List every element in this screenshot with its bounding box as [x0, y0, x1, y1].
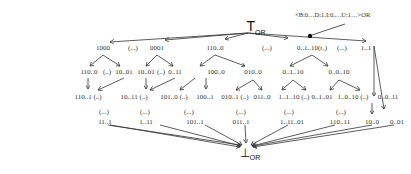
lattice-node: 011..0: [253, 93, 270, 101]
lattice-node: (...): [236, 108, 246, 116]
lattice-node: 1000: [96, 44, 110, 52]
lattice-node: (...): [284, 108, 294, 116]
lattice-node: (...): [140, 108, 150, 116]
lattice-node: 0..1..10(t₂): [297, 44, 327, 52]
lattice-node: 100..1: [196, 93, 214, 101]
lattice-node: 0..01: [390, 118, 404, 126]
lattice-node: (..): [103, 68, 111, 76]
annotation-point: [308, 34, 312, 38]
lattice-node: (...): [128, 44, 138, 52]
lattice-node: (..): [157, 68, 165, 76]
lattice-node: 110..1 (..): [74, 93, 101, 101]
lattice-diagram: TOR <B:0…D:1.I:0,…U:1…>OR 1000(...)00011…: [0, 0, 411, 174]
lattice-node: 010..0: [244, 68, 262, 76]
lattice-node: 10..01: [115, 68, 133, 76]
lattice-node: (...): [337, 44, 347, 52]
lattice-node: 11..1: [98, 118, 112, 126]
lattice-edges: [0, 0, 411, 174]
lattice-node: 1..1: [361, 44, 372, 52]
lattice-node: 101..0 (..): [160, 93, 187, 101]
lattice-node: 0..1..10: [283, 68, 304, 76]
top-node: TOR: [246, 18, 265, 36]
lattice-node: (...): [99, 108, 109, 116]
lattice-node: (...): [184, 108, 194, 116]
lattice-node: 1..0..10 (..): [338, 93, 369, 101]
lattice-node: 10..01: [137, 68, 155, 76]
lattice-node: 110..11: [330, 118, 350, 126]
lattice-node: 1..1..10 (..): [279, 93, 310, 101]
lattice-node: 100..0: [207, 68, 225, 76]
annotation-label: <B:0…D:1.I:0,…U:1…>OR: [295, 11, 370, 18]
lattice-node: 011..1: [232, 118, 249, 126]
lattice-node: 010..1 (..): [221, 93, 248, 101]
lattice-node: 0001: [150, 44, 164, 52]
lattice-node: (...): [336, 108, 346, 116]
lattice-node: (...): [262, 44, 272, 52]
lattice-node: 10..0: [365, 118, 379, 126]
lattice-node: 0..11: [168, 68, 182, 76]
lattice-node: 1..11..01: [280, 118, 304, 126]
lattice-node: 101..1: [186, 118, 204, 126]
lattice-node: 1..11: [139, 118, 153, 126]
lattice-node: 0..0..11: [378, 93, 399, 101]
lattice-node: 10..11 (..): [120, 93, 147, 101]
lattice-node: 110..0: [206, 44, 223, 52]
lattice-node: 0..1..01: [312, 93, 333, 101]
bottom-node: ⊥OR: [240, 146, 261, 161]
lattice-node: 110..0: [80, 68, 97, 76]
lattice-node: 0..0..10: [329, 68, 350, 76]
